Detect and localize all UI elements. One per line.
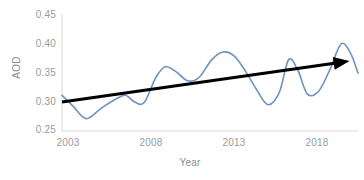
x-tick-label-2018: 2018 <box>297 137 337 148</box>
trend-arrowhead-icon <box>333 57 350 70</box>
x-tick-label-2008: 2008 <box>131 137 171 148</box>
y-tick-label-040: 0.40 <box>22 38 56 49</box>
trend-arrow-line <box>62 63 336 102</box>
chart-plot-area <box>0 0 364 180</box>
x-tick-label-2003: 2003 <box>48 137 88 148</box>
y-tick-label-025: 0.25 <box>22 124 56 135</box>
y-tick-label-045: 0.45 <box>22 9 56 20</box>
y-tick-label-030: 0.30 <box>22 96 56 107</box>
x-axis-title: Year <box>160 157 220 168</box>
aod-year-line-chart: 0.45 0.40 0.35 0.30 0.25 2003 2008 2013 … <box>0 0 364 180</box>
x-tick-label-2013: 2013 <box>214 137 254 148</box>
y-tick-label-035: 0.35 <box>22 67 56 78</box>
y-axis-title: AOD <box>11 38 22 98</box>
